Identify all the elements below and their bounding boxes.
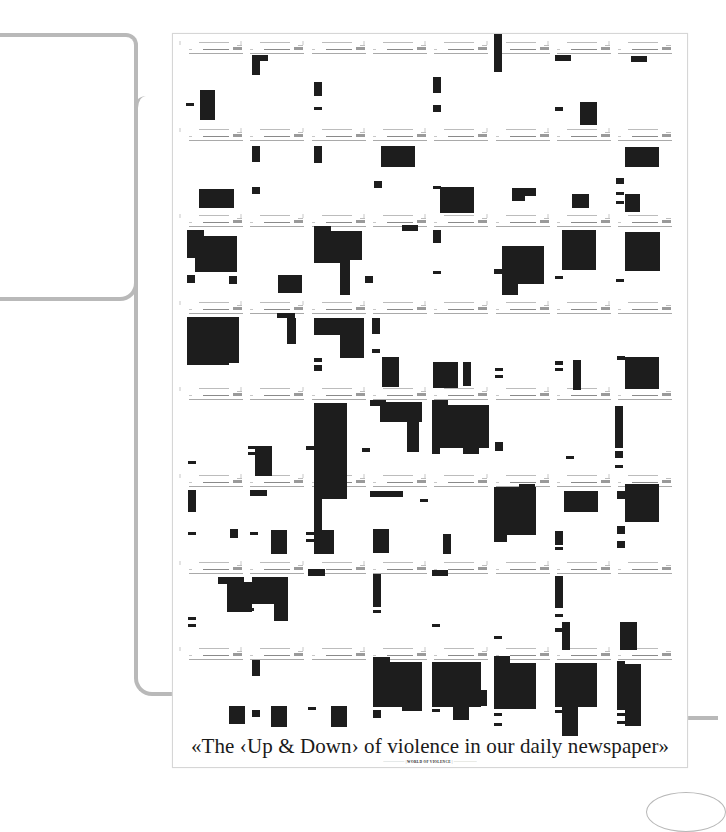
violence-block xyxy=(562,230,596,270)
cell-header xyxy=(555,40,613,56)
violence-block xyxy=(555,361,563,365)
cell-corner-mark xyxy=(424,128,426,132)
violence-block xyxy=(340,318,364,358)
cell-corner-mark xyxy=(179,561,181,565)
violence-block xyxy=(252,710,260,717)
decorative-rounded-frame-top xyxy=(0,33,138,301)
cell-corner-mark xyxy=(608,474,610,478)
violence-block xyxy=(271,530,287,554)
violence-block xyxy=(616,178,624,184)
violence-block xyxy=(494,723,502,726)
cell-corner-mark xyxy=(302,561,304,565)
cell-corner-mark xyxy=(486,41,488,45)
cell-corner-mark xyxy=(547,561,549,565)
violence-block xyxy=(564,491,598,512)
violence-block xyxy=(274,577,288,621)
violence-block xyxy=(519,690,535,706)
cell-corner-mark xyxy=(302,647,304,651)
violence-block xyxy=(314,107,322,110)
cell-corner-mark xyxy=(363,387,365,391)
cell-header xyxy=(494,386,552,402)
violence-block xyxy=(495,368,503,371)
cell-corner-mark xyxy=(240,647,242,651)
violence-block xyxy=(555,107,563,111)
violence-block xyxy=(616,279,624,282)
cell-corner-mark xyxy=(179,474,181,478)
cell-header xyxy=(555,213,613,229)
cell-corner-mark xyxy=(302,474,304,478)
violence-block xyxy=(271,706,287,727)
violence-block xyxy=(433,362,441,366)
violence-block xyxy=(502,283,518,295)
violence-block xyxy=(617,491,625,499)
violence-block xyxy=(433,230,441,243)
violence-block xyxy=(373,529,389,553)
poster-title: «The ‹Up & Down› of violence in our dail… xyxy=(172,734,688,759)
cell-corner-mark xyxy=(486,474,488,478)
cell-corner-mark xyxy=(240,301,242,305)
cell-corner-mark xyxy=(240,128,242,132)
violence-block xyxy=(187,275,195,283)
cell-header xyxy=(248,127,306,143)
cell-corner-mark xyxy=(302,387,304,391)
cell-corner-mark xyxy=(486,214,488,218)
cell-corner-mark xyxy=(363,647,365,651)
violence-block xyxy=(373,710,381,718)
violence-block xyxy=(433,186,441,189)
violence-block xyxy=(370,491,403,497)
violence-block xyxy=(463,362,471,386)
violence-block xyxy=(573,360,581,390)
cell-header xyxy=(616,300,674,316)
cell-header xyxy=(432,40,490,56)
cell-header xyxy=(494,40,552,56)
cell-corner-mark xyxy=(486,561,488,565)
violence-block xyxy=(373,610,381,613)
violence-block xyxy=(314,146,322,163)
violence-block xyxy=(502,246,544,284)
violence-block xyxy=(188,624,196,627)
cell-header xyxy=(248,386,306,402)
cell-corner-mark xyxy=(608,387,610,391)
cell-corner-mark xyxy=(363,41,365,45)
violence-block xyxy=(494,269,502,274)
cell-corner-mark xyxy=(363,128,365,132)
cell-corner-mark xyxy=(424,387,426,391)
violence-block xyxy=(625,484,659,522)
violence-block xyxy=(625,194,640,212)
violence-block xyxy=(188,532,196,535)
violence-block xyxy=(187,362,196,365)
violence-block xyxy=(620,622,637,650)
cell-corner-mark xyxy=(240,387,242,391)
violence-block xyxy=(555,547,563,550)
cell-header xyxy=(371,300,429,316)
cell-header xyxy=(555,560,613,576)
violence-block xyxy=(188,461,196,464)
violence-block xyxy=(331,706,347,727)
violence-block xyxy=(443,534,451,554)
cell-corner-mark xyxy=(363,474,365,478)
cell-header xyxy=(371,127,429,143)
violence-block xyxy=(555,663,597,707)
decorative-circle xyxy=(646,792,726,832)
cell-header xyxy=(555,386,613,402)
violence-block xyxy=(362,448,370,452)
violence-block xyxy=(306,532,314,535)
violence-block xyxy=(246,608,254,611)
violence-block xyxy=(555,614,563,617)
violence-block xyxy=(580,102,597,125)
violence-block xyxy=(248,446,260,449)
cell-header xyxy=(616,127,674,143)
cell-corner-mark xyxy=(547,41,549,45)
violence-block xyxy=(314,530,334,554)
violence-block xyxy=(250,490,267,496)
violence-block xyxy=(555,576,563,608)
cell-corner-mark xyxy=(608,301,610,305)
violence-block xyxy=(373,574,381,607)
violence-block xyxy=(314,358,322,362)
violence-block xyxy=(432,446,440,454)
cell-header xyxy=(310,646,368,662)
violence-block xyxy=(432,405,489,448)
violence-block xyxy=(433,105,441,112)
violence-block xyxy=(494,502,507,542)
cell-header xyxy=(555,127,613,143)
